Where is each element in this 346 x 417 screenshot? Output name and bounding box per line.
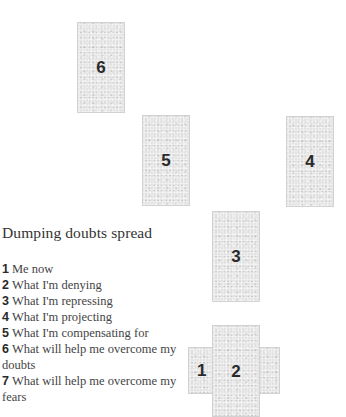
legend-meaning: What will help me overcome my fears [2, 374, 176, 404]
card-number-6: 6 [96, 59, 105, 76]
legend-number: 4 [2, 310, 9, 324]
card-number-2: 2 [231, 363, 240, 380]
card-number-3: 3 [231, 248, 240, 265]
legend-item-2: 2What I'm denying [2, 277, 177, 293]
spread-title: Dumping doubts spread [2, 224, 152, 242]
legend-number: 6 [2, 342, 9, 356]
legend-item-1: 1Me now [2, 261, 177, 277]
card-position-6: 6 [77, 22, 125, 113]
legend-meaning: Me now [12, 262, 53, 276]
legend-meaning: What I'm compensating for [12, 326, 149, 340]
card-position-2: 2 [212, 325, 260, 417]
card-number-1: 1 [197, 362, 206, 379]
legend-item-3: 3What I'm repressing [2, 293, 177, 309]
card-position-3: 3 [212, 211, 260, 302]
legend-meaning: What will help me overcome my doubts [2, 342, 176, 372]
position-legend: 1Me now 2What I'm denying 3What I'm repr… [2, 261, 177, 405]
card-number-5: 5 [161, 152, 170, 169]
legend-number: 2 [2, 278, 9, 292]
card-number-4: 4 [305, 153, 314, 170]
legend-item-7: 7What will help me overcome my fears [2, 373, 177, 405]
legend-item-5: 5What I'm compensating for [2, 325, 177, 341]
legend-item-6: 6What will help me overcome my doubts [2, 341, 177, 373]
legend-meaning: What I'm repressing [12, 294, 113, 308]
legend-meaning: What I'm projecting [12, 310, 112, 324]
legend-item-4: 4What I'm projecting [2, 309, 177, 325]
legend-number: 3 [2, 294, 9, 308]
card-position-4: 4 [286, 116, 334, 207]
card-position-5: 5 [142, 115, 190, 206]
legend-number: 5 [2, 326, 9, 340]
legend-meaning: What I'm denying [12, 278, 102, 292]
legend-number: 1 [2, 262, 9, 276]
legend-number: 7 [2, 374, 9, 388]
